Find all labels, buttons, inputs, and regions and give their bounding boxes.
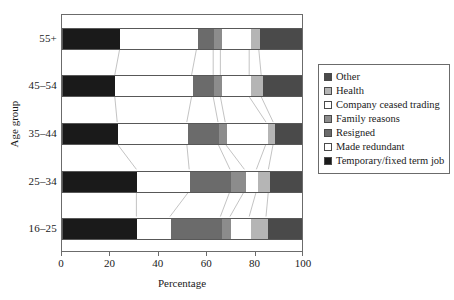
y-tick-label: 25–34 xyxy=(1,175,57,187)
x-tick-label: 20 xyxy=(104,257,115,269)
x-tick-label: 80 xyxy=(249,257,260,269)
bar-segment xyxy=(120,28,197,50)
legend-item[interactable]: Company ceased trading xyxy=(324,98,445,112)
stacked-bar-chart: Age group 55+45–5435–4425–3416–25 020406… xyxy=(0,0,454,300)
bar-segment xyxy=(118,123,188,145)
legend-swatch-icon xyxy=(324,129,332,137)
bar-segment xyxy=(62,123,118,145)
x-tick-mark xyxy=(302,252,303,256)
bar-35-44 xyxy=(62,123,302,145)
bar-segment xyxy=(115,75,192,97)
legend-label: Health xyxy=(336,85,364,97)
bar-45-54 xyxy=(62,75,302,97)
legend-label: Temporary/fixed term job xyxy=(336,155,444,167)
bar-segment xyxy=(268,123,275,145)
legend-label: Resigned xyxy=(336,127,375,139)
bar-segment xyxy=(171,218,222,240)
bar-segment xyxy=(222,75,251,97)
bar-segment xyxy=(190,171,231,193)
legend-label: Made redundant xyxy=(336,141,405,153)
x-axis-ticks: 020406080100 xyxy=(61,252,303,258)
bar-55+ xyxy=(62,28,302,50)
x-tick-label: 100 xyxy=(295,257,312,269)
bar-segment xyxy=(227,123,268,145)
bar-segment xyxy=(193,75,215,97)
y-tick-label: 35–44 xyxy=(1,127,57,139)
legend-swatch-icon xyxy=(324,115,332,123)
x-tick-mark xyxy=(61,252,62,256)
bar-25-34 xyxy=(62,171,302,193)
bar-16-25 xyxy=(62,218,302,240)
bar-segment xyxy=(62,75,115,97)
bar-segment xyxy=(214,75,221,97)
bar-segment xyxy=(222,218,232,240)
y-tick-label: 45–54 xyxy=(1,79,57,91)
bar-segment xyxy=(260,28,302,50)
legend-item[interactable]: Family reasons xyxy=(324,112,445,126)
legend-item[interactable]: Resigned xyxy=(324,126,445,140)
x-tick-mark xyxy=(255,252,256,256)
plot-area xyxy=(61,14,303,252)
bar-segment xyxy=(251,218,268,240)
legend-swatch-icon xyxy=(324,143,332,151)
y-axis-tick-labels: 55+45–5435–4425–3416–25 xyxy=(0,14,57,252)
x-tick-label: 60 xyxy=(201,257,212,269)
bar-segment xyxy=(258,171,270,193)
x-tick-mark xyxy=(158,252,159,256)
bar-segment xyxy=(263,75,302,97)
x-tick-mark xyxy=(206,252,207,256)
legend-swatch-icon xyxy=(324,101,332,109)
bar-segment xyxy=(270,171,302,193)
bar-segment xyxy=(251,75,263,97)
bar-segment xyxy=(219,123,226,145)
legend-item[interactable]: Made redundant xyxy=(324,140,445,154)
legend-label: Other xyxy=(336,71,360,83)
bar-segment xyxy=(231,218,250,240)
y-tick-label: 55+ xyxy=(1,32,57,44)
x-axis-title: Percentage xyxy=(61,277,303,289)
bar-segment xyxy=(62,171,137,193)
legend-swatch-icon xyxy=(324,73,332,81)
legend: OtherHealthCompany ceased tradingFamily … xyxy=(318,64,450,174)
x-tick-label: 40 xyxy=(152,257,163,269)
bar-segment xyxy=(268,218,302,240)
legend-item[interactable]: Temporary/fixed term job xyxy=(324,154,445,168)
bar-segment xyxy=(275,123,302,145)
legend-label: Company ceased trading xyxy=(336,99,440,111)
bar-segment xyxy=(246,171,258,193)
bar-segment xyxy=(137,218,171,240)
y-tick-label: 16–25 xyxy=(1,222,57,234)
legend-item[interactable]: Other xyxy=(324,70,445,84)
bar-segment xyxy=(231,171,246,193)
x-tick-label: 0 xyxy=(58,257,64,269)
x-tick-mark xyxy=(109,252,110,256)
legend-swatch-icon xyxy=(324,157,332,165)
bar-segment xyxy=(137,171,190,193)
bar-segment xyxy=(62,218,137,240)
bar-segment xyxy=(188,123,219,145)
bar-segment xyxy=(62,28,120,50)
bar-segment xyxy=(198,28,215,50)
bar-segment xyxy=(214,28,221,50)
legend-item[interactable]: Health xyxy=(324,84,445,98)
legend-label: Family reasons xyxy=(336,113,400,125)
bar-segment xyxy=(251,28,261,50)
legend-swatch-icon xyxy=(324,87,332,95)
bar-segment xyxy=(222,28,251,50)
